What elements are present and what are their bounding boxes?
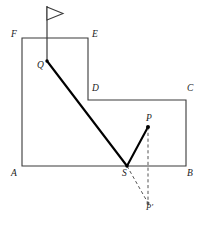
- vertex-label-e: E: [92, 30, 98, 40]
- vertex-label-p-prime: P′: [146, 203, 153, 212]
- vertex-label-q: Q: [37, 61, 44, 71]
- vertex-label-a: A: [11, 169, 17, 179]
- figure-canvas: [0, 0, 205, 229]
- ray-s-to-p: [127, 127, 148, 166]
- ray-q-to-s: [47, 61, 127, 166]
- vertex-label-c: C: [187, 84, 193, 94]
- flag-banner-icon: [47, 7, 63, 20]
- vertex-label-b: B: [187, 169, 193, 179]
- vertex-label-p: P: [146, 114, 152, 124]
- vertex-label-d: D: [92, 84, 99, 94]
- point-marker-p: [146, 125, 150, 129]
- geometry-figure: F E Q D C P A S B P′: [0, 0, 205, 229]
- vertex-label-f: F: [11, 30, 17, 40]
- point-marker-q: [45, 59, 48, 62]
- vertex-label-s: S: [122, 169, 127, 179]
- dashed-line-s-to-p-prime: [127, 166, 148, 203]
